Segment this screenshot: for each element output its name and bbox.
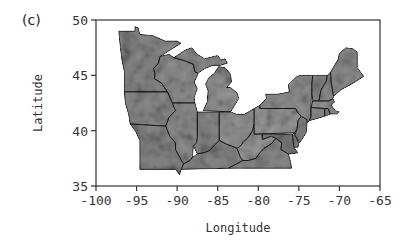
state-maine [331,48,364,97]
x-tick-label: -80 [247,193,270,208]
state-pennsylvania [254,105,301,134]
y-axis-title: Latitude [31,74,45,132]
y-tick-label: 45 [72,68,88,83]
x-tick-label: -75 [287,193,310,208]
x-tick-label: -85 [206,193,229,208]
x-axis-title: Longitude [205,221,270,235]
state-michigan-lower [203,67,239,112]
panel-label: (c) [22,12,41,28]
states-layer [119,27,364,175]
state-connecticut [309,107,324,120]
x-tick-label: -70 [328,193,351,208]
x-tick-label: -100 [80,193,111,208]
map-figure: (c) -100-95-90-85-80-75-70-65 35404550 L… [0,0,411,252]
x-tick-label: -95 [125,193,148,208]
y-tick-label: 50 [72,13,88,28]
y-tick-label: 35 [72,179,88,194]
x-tick-label: -90 [165,193,188,208]
y-tick-label: 40 [72,124,88,139]
y-axis: 35404550 [72,13,96,194]
x-axis: -100-95-90-85-80-75-70-65 [80,186,391,208]
x-tick-label: -65 [368,193,391,208]
